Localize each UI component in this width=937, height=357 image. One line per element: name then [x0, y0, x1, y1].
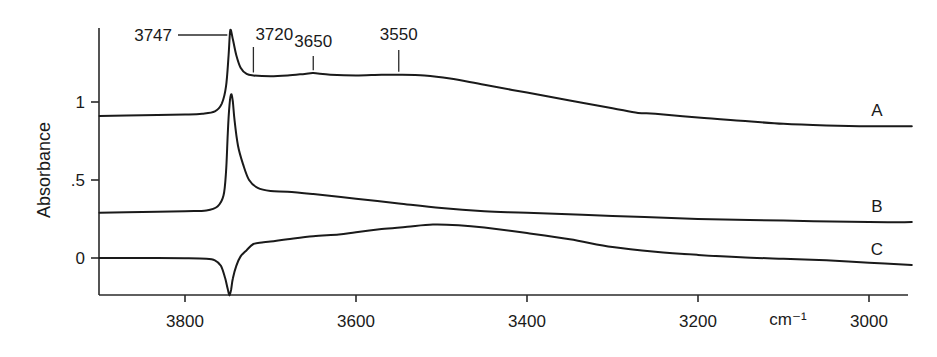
- series-label-b: B: [871, 197, 882, 216]
- x-tick-label: 3000: [850, 312, 888, 331]
- x-tick-label: 3800: [166, 312, 204, 331]
- x-axis-unit-label: cm⁻¹: [769, 310, 807, 329]
- y-axis-title: Absorbance: [34, 122, 54, 218]
- axes: 0.5138003600340032003000cm⁻¹: [71, 28, 908, 331]
- annotation-label: 3550: [380, 25, 418, 44]
- series-label-c: C: [871, 240, 883, 259]
- ir-spectrum-chart: 0.5138003600340032003000cm⁻¹ 37473720365…: [0, 0, 937, 357]
- y-tick-label: 1: [76, 93, 85, 112]
- y-tick-label: 0: [76, 249, 85, 268]
- curve-a: [100, 30, 912, 127]
- x-tick-label: 3600: [337, 312, 375, 331]
- curve-c: [100, 224, 912, 295]
- x-tick-label: 3200: [679, 312, 717, 331]
- series-labels: ABC: [871, 101, 883, 259]
- peak-annotations: 3747372036503550: [134, 25, 417, 72]
- annotation-label: 3720: [255, 25, 293, 44]
- annotation-label: 3650: [294, 32, 332, 51]
- curves: [100, 30, 912, 296]
- x-tick-label: 3400: [508, 312, 546, 331]
- curve-b: [100, 94, 912, 222]
- annotation-label: 3747: [134, 26, 172, 45]
- series-label-a: A: [871, 101, 883, 120]
- y-tick-label: .5: [71, 171, 85, 190]
